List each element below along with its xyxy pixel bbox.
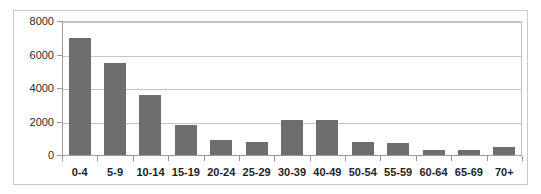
x-tick-mark	[380, 156, 381, 161]
x-tick-label: 20-24	[207, 166, 235, 178]
x-tick-label: 5-9	[107, 166, 123, 178]
bar	[316, 120, 338, 155]
bar	[387, 143, 409, 155]
bar	[352, 142, 374, 155]
bar	[69, 38, 91, 155]
x-tick-label: 10-14	[136, 166, 164, 178]
x-tick-label: 40-49	[313, 166, 341, 178]
bar	[281, 120, 303, 155]
y-tick-label: 6000	[30, 50, 54, 61]
x-tick-label: 50-54	[349, 166, 377, 178]
bars-layer	[62, 21, 522, 155]
x-tick-label: 15-19	[172, 166, 200, 178]
x-tick-label: 60-64	[419, 166, 447, 178]
x-tick-mark	[62, 156, 63, 161]
x-tick-mark	[239, 156, 240, 161]
x-tick-mark	[168, 156, 169, 161]
x-tick-mark	[451, 156, 452, 161]
x-tick-mark	[204, 156, 205, 161]
x-tick-mark	[487, 156, 488, 161]
y-tick-label: 2000	[30, 117, 54, 128]
x-tick-mark	[97, 156, 98, 161]
y-tick-label: 0	[48, 150, 54, 161]
x-tick-label: 25-29	[243, 166, 271, 178]
y-axis-tick-labels: 8000 6000 4000 2000 0	[0, 0, 54, 194]
bar	[210, 140, 232, 155]
bar-chart: 8000 6000 4000 2000 0 0-45-910-1415-1920…	[0, 0, 541, 194]
x-tick-label: 0-4	[72, 166, 88, 178]
bar	[493, 147, 515, 155]
bar	[175, 125, 197, 155]
x-tick-mark	[310, 156, 311, 161]
bar	[423, 150, 445, 155]
y-tick-label: 8000	[30, 16, 54, 27]
x-tick-label: 30-39	[278, 166, 306, 178]
x-tick-mark	[274, 156, 275, 161]
x-tick-mark	[345, 156, 346, 161]
bar	[246, 142, 268, 155]
x-tick-mark	[133, 156, 134, 161]
bar	[104, 63, 126, 155]
bar	[139, 95, 161, 155]
x-tick-label: 65-69	[455, 166, 483, 178]
x-tick-label: 55-59	[384, 166, 412, 178]
y-tick-label: 4000	[30, 83, 54, 94]
x-tick-mark	[416, 156, 417, 161]
x-tick-label: 70+	[495, 166, 514, 178]
x-tick-mark	[522, 156, 523, 161]
x-axis-line	[62, 155, 522, 156]
bar	[458, 150, 480, 155]
